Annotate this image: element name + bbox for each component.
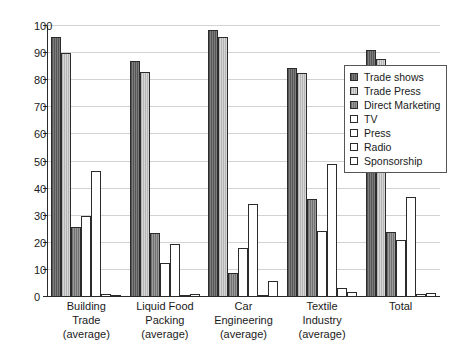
legend-swatch-icon: [350, 157, 358, 165]
y-axis-tick-label: 50: [34, 156, 37, 167]
bar: [180, 295, 190, 297]
bar-chart: 0102030405060708090100 BuildingTrade(ave…: [0, 0, 463, 364]
y-axis-tick-label: 70: [34, 102, 37, 113]
legend-item-label: Sponsorship: [364, 156, 422, 167]
bar: [337, 288, 347, 297]
x-axis-label-line: (average): [283, 327, 362, 341]
x-axis-label-line: (average): [126, 327, 205, 341]
legend-item[interactable]: Sponsorship: [350, 154, 440, 168]
bar: [111, 295, 121, 297]
x-axis-label-line: (average): [47, 327, 126, 341]
bar: [218, 37, 228, 297]
legend-item[interactable]: Direct Marketing: [350, 98, 440, 112]
legend-item-label: Trade Press: [364, 86, 421, 97]
legend-item-label: Press: [364, 128, 391, 139]
x-axis-label-line: Industry: [283, 313, 362, 327]
bar: [238, 248, 248, 297]
bar: [91, 171, 101, 297]
legend-item-label: Radio: [364, 142, 391, 153]
bar: [81, 216, 91, 297]
legend-swatch-icon: [350, 129, 358, 137]
y-axis-tick-label: 100: [34, 21, 37, 32]
bar: [71, 227, 81, 297]
bar: [248, 204, 258, 297]
x-axis-label-line: Trade: [47, 313, 126, 327]
legend: Trade showsTrade PressDirect MarketingTV…: [344, 65, 447, 173]
bar-group: [126, 26, 205, 297]
x-axis-labels: BuildingTrade(average)Liquid FoodPacking…: [47, 299, 440, 341]
legend-item-label: TV: [364, 114, 377, 125]
bar-group: [47, 26, 126, 297]
bar: [130, 61, 140, 297]
bar: [51, 37, 61, 297]
bar: [150, 233, 160, 297]
legend-item[interactable]: Press: [350, 126, 440, 140]
x-axis-label-line: (average): [204, 327, 283, 341]
bar: [297, 73, 307, 297]
bar: [426, 293, 436, 297]
y-axis-tick-label: 80: [34, 75, 37, 86]
x-axis-label: CarEngineering(average): [204, 299, 283, 341]
bar: [396, 240, 406, 297]
legend-item[interactable]: Radio: [350, 140, 440, 154]
legend-swatch-icon: [350, 87, 358, 95]
y-axis-tick-label: 40: [34, 183, 37, 194]
legend-swatch-icon: [350, 101, 358, 109]
bar-group: [204, 26, 283, 297]
bar: [317, 231, 327, 297]
bar: [160, 263, 170, 297]
y-axis-tick-label: 90: [34, 48, 37, 59]
x-axis-label-line: Packing: [126, 313, 205, 327]
bar: [61, 53, 71, 297]
legend-item[interactable]: Trade Press: [350, 84, 440, 98]
bar: [268, 281, 278, 297]
y-axis-tick-label: 60: [34, 129, 37, 140]
y-axis-tick-label: 10: [34, 264, 37, 275]
bar: [258, 295, 268, 297]
x-axis-label-line: Liquid Food: [126, 299, 205, 313]
x-axis-label: Liquid FoodPacking(average): [126, 299, 205, 341]
legend-item-label: Trade shows: [364, 72, 424, 83]
y-axis-tick-label: 30: [34, 210, 37, 221]
legend-swatch-icon: [350, 73, 358, 81]
x-axis-label-line: Total: [361, 299, 440, 313]
x-axis-label-line: Textile: [283, 299, 362, 313]
bar: [307, 199, 317, 297]
bar: [327, 164, 337, 297]
x-axis-label-line: Engineering: [204, 313, 283, 327]
bar: [347, 292, 357, 297]
bar: [170, 244, 180, 297]
bar: [406, 197, 416, 297]
x-axis-label: BuildingTrade(average): [47, 299, 126, 341]
bar: [101, 294, 111, 297]
x-axis-label-line: Building: [47, 299, 126, 313]
x-axis-label: Total: [361, 299, 440, 341]
x-axis-label: TextileIndustry(average): [283, 299, 362, 341]
legend-item[interactable]: Trade shows: [350, 70, 440, 84]
legend-swatch-icon: [350, 143, 358, 151]
y-axis-tick-label: 0: [34, 292, 37, 303]
bar: [208, 30, 218, 297]
legend-item[interactable]: TV: [350, 112, 440, 126]
y-axis-tick-label: 20: [34, 237, 37, 248]
legend-swatch-icon: [350, 115, 358, 123]
bar: [386, 232, 396, 297]
bar: [228, 273, 238, 297]
bar: [140, 72, 150, 297]
bar: [416, 294, 426, 297]
x-axis-label-line: Car: [204, 299, 283, 313]
bar: [190, 294, 200, 297]
legend-item-label: Direct Marketing: [364, 100, 440, 111]
bar: [287, 68, 297, 297]
